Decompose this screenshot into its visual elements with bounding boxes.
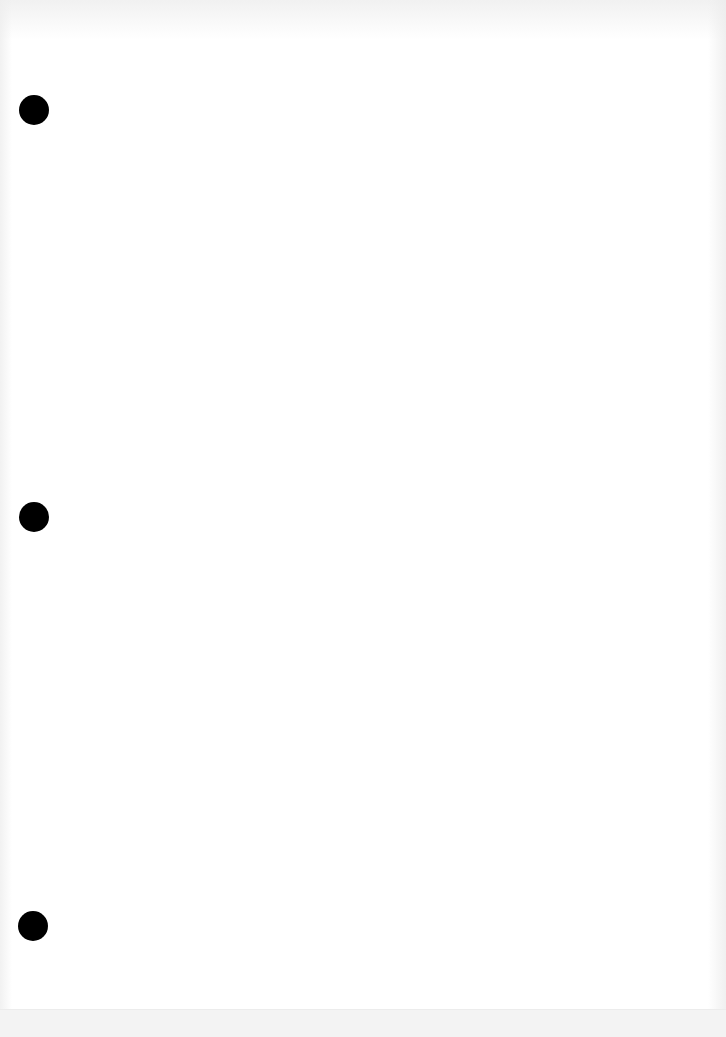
blank-paper-page xyxy=(0,0,726,1037)
punch-hole-middle xyxy=(19,502,49,532)
page-top-shadow xyxy=(0,0,726,40)
punch-hole-bottom xyxy=(18,911,48,941)
page-left-shadow xyxy=(0,0,12,1037)
punch-hole-top xyxy=(19,95,49,125)
page-bottom-edge xyxy=(0,1009,726,1037)
page-right-shadow xyxy=(708,0,726,1037)
